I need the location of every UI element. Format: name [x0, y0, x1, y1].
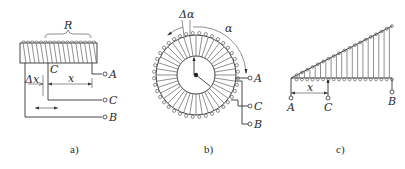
terminal-b — [103, 115, 107, 119]
caption-a: a) — [70, 143, 79, 156]
terminal-b — [390, 90, 394, 94]
terminal-b-label: B — [387, 95, 396, 108]
coil-windings — [22, 41, 97, 63]
caption-c: c) — [336, 143, 345, 156]
caption-b: b) — [204, 143, 214, 156]
x-label: x — [68, 72, 75, 85]
terminal-c-label: C — [324, 101, 333, 114]
potentiometer-figure: R C A Δx x C B a) — [0, 0, 405, 169]
delta-alpha-label: Δα — [178, 8, 195, 21]
terminal-b-label: B — [253, 118, 262, 131]
terminal-a — [103, 72, 107, 76]
wiper-label: C — [50, 63, 59, 76]
wiper-arm — [196, 75, 210, 86]
terminal-a-label: A — [253, 72, 262, 85]
terminal-c-label: C — [254, 100, 263, 113]
terminal-c — [248, 104, 252, 108]
x-label: x — [307, 81, 314, 94]
terminal-a-label: A — [108, 68, 117, 81]
terminal-c-label: C — [109, 94, 118, 107]
panel-c-nonlinear-potentiometer: A C x B c) — [286, 25, 396, 156]
terminal-a — [289, 96, 293, 100]
terminal-c — [326, 96, 330, 100]
terminal-c — [103, 98, 107, 102]
terminal-b — [248, 122, 252, 126]
resistance-label: R — [63, 19, 72, 32]
terminal-a-label: A — [286, 101, 295, 114]
terminal-b-label: B — [108, 111, 117, 124]
panel-a-linear-potentiometer: R C A Δx x C B a) — [20, 19, 118, 156]
terminal-a — [248, 76, 252, 80]
alpha-label: α — [225, 22, 233, 35]
panel-b-rotary-potentiometer: Δα α A C B b) — [153, 8, 263, 156]
